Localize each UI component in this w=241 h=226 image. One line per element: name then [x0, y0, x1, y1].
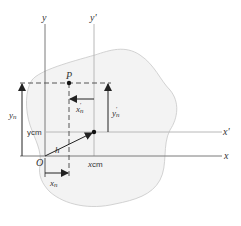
y-n-label: yn [8, 110, 17, 121]
point-c [92, 130, 96, 134]
y-prime-axis-label: y' [89, 12, 97, 23]
point-p [67, 81, 71, 85]
x-axis-label: x [223, 150, 229, 161]
x-prime-axis-label: x' [222, 126, 230, 137]
y-axis-label: y [41, 12, 47, 23]
origin-label: O [36, 157, 43, 168]
h-label: h [55, 145, 60, 155]
rigid-body-shape [26, 49, 176, 206]
x-cm-label: xcm [87, 159, 103, 169]
diagram-canvas: y y' x x' P O h yn ycm xcm xn xn' yn' [0, 0, 241, 226]
point-p-label: P [65, 70, 72, 81]
y-cm-label: ycm [27, 128, 42, 137]
